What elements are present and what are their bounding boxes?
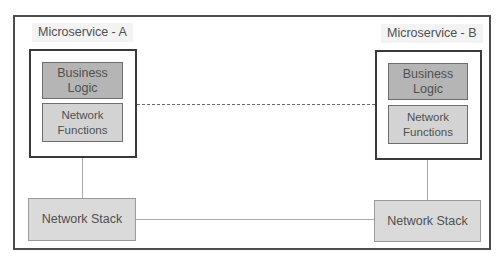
business-logic-line-1: Business <box>57 66 108 81</box>
network-functions-line-1: Network <box>403 110 453 125</box>
business-logic-line-1: Business <box>403 67 454 82</box>
microservice-b-business-logic: Business Logic <box>388 63 468 100</box>
microservice-a-network-functions: Network Functions <box>42 103 123 142</box>
connector-a-vertical <box>82 158 83 198</box>
microservice-b-label: Microservice - B <box>381 24 483 43</box>
network-functions-line-2: Functions <box>403 125 453 140</box>
business-logic-line-2: Logic <box>403 82 454 97</box>
microservice-a-network-stack: Network Stack <box>28 198 136 241</box>
microservice-a-label: Microservice - A <box>32 23 133 42</box>
connector-network-functions-dashed <box>137 104 375 105</box>
microservice-a-business-logic: Business Logic <box>42 62 123 99</box>
connector-b-vertical <box>427 160 428 200</box>
connector-network-stack <box>136 219 374 220</box>
microservice-b-network-functions: Network Functions <box>388 105 468 144</box>
network-functions-line-2: Functions <box>58 123 108 138</box>
network-stack-label: Network Stack <box>42 212 123 227</box>
network-functions-line-1: Network <box>58 108 108 123</box>
network-stack-label: Network Stack <box>387 214 468 229</box>
business-logic-line-2: Logic <box>57 81 108 96</box>
microservice-b-network-stack: Network Stack <box>374 200 481 242</box>
